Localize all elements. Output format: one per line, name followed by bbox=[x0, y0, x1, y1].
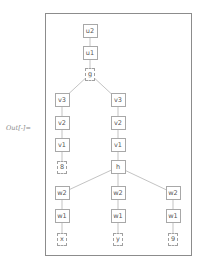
node-label: u1 bbox=[86, 50, 94, 57]
node-label: v1 bbox=[58, 142, 66, 149]
tree-node-v1a: v1 bbox=[55, 138, 70, 152]
tree-node-u1: u1 bbox=[83, 46, 98, 60]
tree-node-v2a: v2 bbox=[55, 116, 70, 130]
tree-node-w1c: w1 bbox=[166, 209, 181, 223]
node-label: v1 bbox=[114, 142, 122, 149]
tree-node-w1a: w1 bbox=[55, 209, 70, 223]
node-label: 9 bbox=[171, 236, 175, 243]
node-label: u2 bbox=[86, 28, 94, 35]
node-label: w2 bbox=[113, 190, 122, 197]
tree-node-n9: 9 bbox=[168, 233, 178, 246]
node-label: v2 bbox=[114, 120, 122, 127]
node-label: w1 bbox=[113, 213, 122, 220]
tree-node-v3a: v3 bbox=[55, 93, 70, 107]
node-label: g bbox=[88, 71, 92, 78]
node-label: w2 bbox=[168, 190, 177, 197]
node-label: y bbox=[116, 236, 120, 243]
node-label: h bbox=[116, 164, 120, 171]
node-label: w1 bbox=[57, 213, 66, 220]
tree-node-w2b: w2 bbox=[111, 186, 126, 200]
node-label: x bbox=[60, 236, 64, 243]
tree-node-y: y bbox=[113, 233, 123, 246]
node-label: v3 bbox=[58, 97, 66, 104]
tree-node-v1b: v1 bbox=[111, 138, 126, 152]
tree-node-u2: u2 bbox=[83, 24, 98, 38]
tree-node-g: g bbox=[85, 68, 95, 81]
tree-node-w1b: w1 bbox=[111, 209, 126, 223]
node-label: w2 bbox=[57, 190, 66, 197]
tree-node-v2b: v2 bbox=[111, 116, 126, 130]
tree-edges bbox=[0, 0, 203, 270]
node-label: v3 bbox=[114, 97, 122, 104]
tree-node-h: h bbox=[111, 160, 126, 174]
tree-node-n8: 8 bbox=[57, 161, 67, 174]
node-label: 8 bbox=[60, 164, 64, 171]
tree-node-w2a: w2 bbox=[55, 186, 70, 200]
node-label: w1 bbox=[168, 213, 177, 220]
tree-node-w2c: w2 bbox=[166, 186, 181, 200]
tree-node-x: x bbox=[57, 233, 67, 246]
tree-node-v3b: v3 bbox=[111, 93, 126, 107]
node-label: v2 bbox=[58, 120, 66, 127]
